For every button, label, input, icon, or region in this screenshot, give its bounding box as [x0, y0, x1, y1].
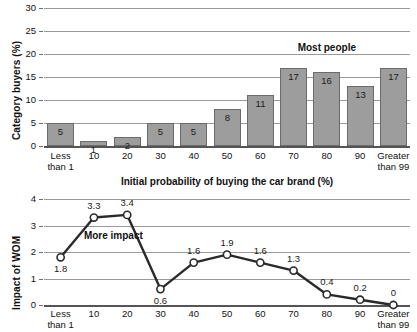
x-tick-label-line1: 20 [122, 150, 133, 161]
line-data-point [257, 259, 264, 266]
x-tick-label-line1: Greater [377, 150, 409, 161]
x-tick-label-line1: 10 [89, 150, 100, 161]
line-data-point [157, 286, 164, 293]
line-data-point [223, 251, 230, 258]
bar-chart-y-tick [39, 123, 43, 124]
x-tick-label-line1: 40 [188, 308, 199, 319]
line-data-point [90, 214, 97, 221]
bar-chart-y-tick [39, 8, 43, 9]
bar-value-label: 16 [307, 75, 346, 86]
x-tick-label-line1: 80 [322, 308, 333, 319]
x-tick-label-line1: 50 [222, 308, 233, 319]
bar-chart-y-tick [39, 31, 43, 32]
x-tick-label-line1: 40 [188, 150, 199, 161]
x-tick-label-line1: 70 [288, 150, 299, 161]
x-tick-label-line2: than 99 [365, 319, 417, 330]
line-chart-annotation: More impact [84, 230, 174, 241]
x-tick-label-line1: Greater [377, 308, 409, 319]
figure-root: Category buyers (%) Initial probability … [0, 0, 417, 332]
line-point-label: 0.6 [140, 295, 180, 306]
x-tick-label-line1: 20 [122, 308, 133, 319]
x-tick-label-line1: 90 [355, 308, 366, 319]
x-tick-label-line1: 60 [255, 150, 266, 161]
bar-chart-gridline [44, 31, 410, 32]
x-tick-label-line1: 60 [255, 308, 266, 319]
bar-chart: Category buyers (%) Initial probability … [0, 0, 417, 190]
x-tick-label-line1: 30 [155, 150, 166, 161]
bar-value-label: 17 [374, 71, 413, 82]
bar-chart-y-tick-label: 20 [10, 49, 36, 59]
x-tick-label-line1: 30 [155, 308, 166, 319]
x-tick-label-line1: 80 [322, 150, 333, 161]
line-data-point [124, 211, 131, 218]
x-tick-label-line1: 50 [222, 150, 233, 161]
bar-chart-y-tick [39, 54, 43, 55]
bar-chart-y-tick-label: 25 [10, 26, 36, 36]
shared-x-axis-title: Initial probability of buying the car br… [44, 176, 410, 187]
bar-chart-y-tick-label: 15 [10, 72, 36, 82]
bar-chart-gridline [44, 54, 410, 55]
bar-value-label: 11 [241, 98, 280, 109]
x-tick-label-line2: than 1 [33, 319, 89, 330]
line-data-point [290, 267, 297, 274]
bar-chart-y-tick [39, 146, 43, 147]
bar-value-label: 5 [41, 126, 80, 137]
line-point-label: 1.8 [41, 263, 81, 274]
x-tick-label-line1: 90 [355, 150, 366, 161]
bar-chart-y-tick-label: 10 [10, 95, 36, 105]
bar-chart-y-tick-label: 30 [10, 3, 36, 13]
line-point-label: 1.3 [274, 253, 314, 264]
line-chart: Impact of WOM 012341.83.33.40.61.61.91.6… [0, 190, 417, 332]
line-data-point [190, 259, 197, 266]
line-chart-x-tick-label: Greaterthan 99 [365, 308, 417, 330]
bar-chart-gridline [44, 8, 410, 9]
bar-chart-y-tick-label: 5 [10, 118, 36, 128]
line-data-point [323, 291, 330, 298]
bar-chart-x-tick-label: Greaterthan 99 [365, 150, 417, 172]
bar-value-label: 5 [174, 126, 213, 137]
bar-chart-annotation: Most people [285, 42, 369, 53]
line-data-point [57, 254, 64, 261]
x-tick-label-line2: than 99 [365, 161, 417, 172]
bar-value-label: 13 [341, 89, 380, 100]
x-tick-label-line2: than 1 [33, 161, 89, 172]
line-point-label: 0 [373, 287, 413, 298]
x-tick-label-line1: 10 [89, 308, 100, 319]
line-data-point [356, 296, 363, 303]
bar-chart-gridline [44, 77, 410, 78]
bar-value-label: 8 [208, 112, 247, 123]
x-tick-label-line1: 70 [288, 308, 299, 319]
bar-chart-y-tick [39, 100, 43, 101]
bar-chart-y-tick [39, 77, 43, 78]
line-point-label: 3.4 [107, 197, 147, 208]
